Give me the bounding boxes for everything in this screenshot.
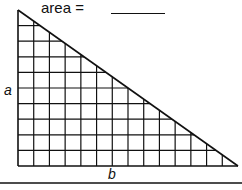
grid-triangle-diagram: [0, 0, 242, 190]
base-label: b: [108, 166, 116, 182]
area-prompt: area =: [41, 0, 84, 16]
answer-blank: [111, 13, 165, 14]
height-label: a: [4, 82, 12, 98]
